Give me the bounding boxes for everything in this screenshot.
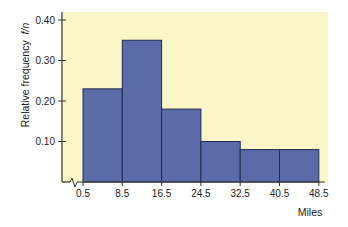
x-tick-label: 40.5 xyxy=(270,188,290,199)
histogram-bar xyxy=(122,40,161,182)
x-axis-title: Miles xyxy=(298,206,323,218)
y-axis: 0.100.200.300.40 xyxy=(36,12,66,182)
y-tick-label: 0.40 xyxy=(36,15,56,26)
x-tick-label: 24.5 xyxy=(191,188,211,199)
x-tick-label: 8.5 xyxy=(115,188,129,199)
x-tick-label: 16.5 xyxy=(152,188,172,199)
histogram-bar xyxy=(201,142,240,183)
histogram-bar xyxy=(240,150,279,182)
y-axis-title-italic: f/n xyxy=(19,23,31,35)
histogram-chart: 0.100.200.300.40 0.58.516.524.532.540.54… xyxy=(0,0,348,227)
histogram-bar xyxy=(280,150,319,182)
histogram-bar xyxy=(83,89,122,182)
x-tick-label: 32.5 xyxy=(230,188,250,199)
y-axis-title-text: Relative frequency xyxy=(19,40,31,128)
y-tick-label: 0.30 xyxy=(36,55,56,66)
histogram-bar xyxy=(162,109,201,182)
x-tick-label: 0.5 xyxy=(76,188,90,199)
y-axis-title: Relative frequency f/n xyxy=(19,23,31,128)
y-tick-label: 0.20 xyxy=(36,96,56,107)
y-tick-label: 0.10 xyxy=(36,136,56,147)
x-tick-label: 48.5 xyxy=(309,188,329,199)
